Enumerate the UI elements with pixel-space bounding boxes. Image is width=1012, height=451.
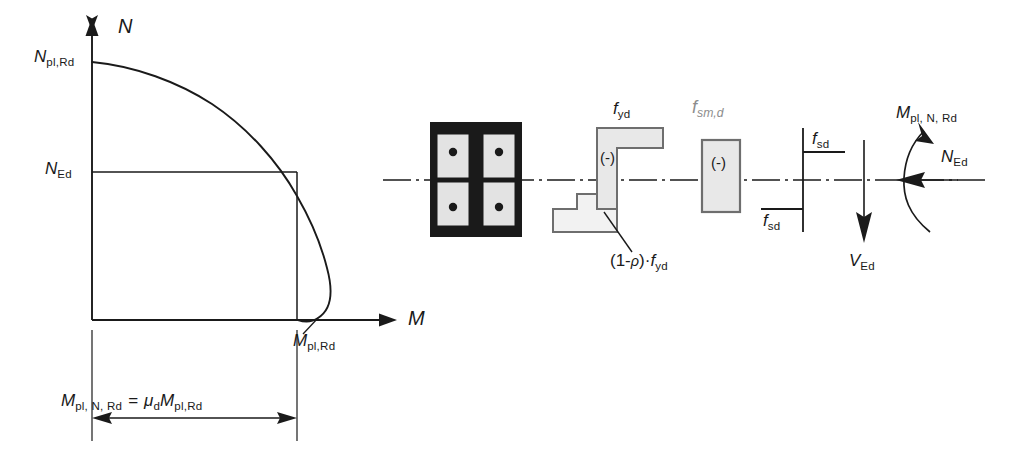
dimension-arrow-left — [92, 412, 112, 424]
rebar-bottom-left — [449, 203, 457, 211]
moment-subscript: pl, N, Rd — [910, 112, 957, 124]
dimension-arrow-right — [277, 412, 297, 424]
n-pl-rd-subscript: pl,Rd — [46, 56, 74, 68]
f-sm-d-subscript: sm,d — [697, 106, 724, 120]
n-pl-rd-label: Npl,Rd — [34, 48, 74, 65]
dim-m-subscript: pl, N, Rd — [75, 400, 122, 412]
steel-block-sign: (-) — [600, 150, 615, 165]
moment-arrowhead — [915, 122, 934, 144]
concrete-stress-block-shape — [702, 140, 740, 212]
interaction-diagram — [86, 18, 398, 441]
m-pl-rd-subscript: pl,Rd — [307, 340, 335, 352]
shear-subscript: Ed — [860, 260, 875, 272]
composite-column-interaction-figure: N M Npl,Rd NEd Mpl,Rd Mpl, N, Rd=μdMpl,R… — [0, 0, 1012, 451]
axial-force-label: NEd — [941, 148, 968, 165]
f-sd-top-subscript: sd — [817, 138, 830, 150]
n-ed-arrowhead — [896, 172, 925, 188]
m-axis-arrowhead — [379, 314, 397, 327]
f-yd-subscript: yd — [618, 108, 631, 120]
axial-symbol: N — [941, 147, 953, 166]
shear-symbol: V — [849, 251, 860, 270]
dim-equals: = — [128, 391, 138, 410]
callout-rho: ρ — [631, 253, 639, 269]
steel-stress-block-drawing — [553, 128, 663, 252]
shear-force-label: VEd — [849, 252, 875, 269]
rebar-top-left — [449, 148, 457, 156]
f-sm-d-label: fsm,d — [692, 98, 724, 116]
f-yd-label: fyd — [613, 100, 630, 117]
n-ed-subscript: Ed — [57, 168, 72, 180]
f-sd-bottom-label: fsd — [763, 212, 780, 229]
dim-mrd-subscript: pl,Rd — [174, 400, 202, 412]
internal-forces-drawing — [856, 122, 985, 243]
callout-open: (1- — [610, 251, 631, 270]
interaction-curve — [92, 62, 331, 321]
m-pl-rd-symbol: M — [293, 331, 307, 350]
moment-symbol: M — [896, 103, 910, 122]
concrete-block-sign: (-) — [711, 155, 726, 170]
n-pl-rd-symbol: N — [34, 47, 46, 66]
f-sd-bottom-subscript: sd — [768, 220, 781, 232]
f-sd-top-label: fsd — [812, 130, 829, 147]
steel-block-callout-label: (1-ρ)·fyd — [610, 252, 668, 269]
axial-subscript: Ed — [953, 156, 968, 168]
m-pl-rd-label: Mpl,Rd — [293, 332, 335, 349]
cross-section-drawing — [383, 122, 958, 237]
m-axis-label: M — [408, 308, 425, 328]
dim-m-symbol: M — [61, 391, 75, 410]
moment-force-label: Mpl, N, Rd — [896, 104, 957, 121]
n-axis-arrowhead — [86, 18, 99, 36]
rebar-bottom-right — [495, 203, 503, 211]
dimension-label: Mpl, N, Rd=μdMpl,Rd — [61, 392, 202, 409]
figure-svg — [0, 0, 1012, 451]
steel-stress-block-upper — [597, 128, 663, 209]
n-axis-label: N — [118, 16, 132, 36]
dim-mrd-symbol: M — [160, 391, 174, 410]
dim-mu-subscript: d — [153, 400, 160, 412]
n-ed-axis-label: NEd — [45, 160, 72, 177]
callout-f-subscript: yd — [655, 260, 668, 272]
concrete-stress-block-drawing — [702, 140, 740, 212]
n-ed-symbol: N — [45, 159, 57, 178]
rebar-top-right — [495, 148, 503, 156]
callout-close: )· — [639, 251, 650, 270]
